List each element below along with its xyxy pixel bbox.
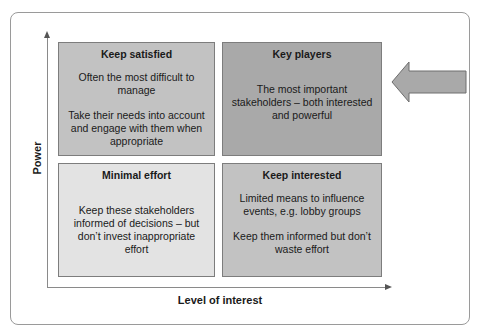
quadrant-title: Minimal effort bbox=[65, 169, 208, 182]
quadrant-text: The most important stakeholders – both i… bbox=[229, 83, 375, 122]
quadrant-text: Limited means to influence events, e.g. … bbox=[229, 192, 375, 218]
quadrant-text: Take their needs into account and engage… bbox=[65, 109, 208, 148]
y-axis-arrowhead-icon bbox=[44, 31, 50, 38]
quadrant-key-players: Key players The most important stakehold… bbox=[222, 42, 382, 156]
quadrant-keep-satisfied: Keep satisfied Often the most difficult … bbox=[58, 42, 215, 156]
x-axis-arrowhead-icon bbox=[385, 284, 392, 290]
quadrant-text: Keep these stakeholders informed of deci… bbox=[65, 204, 208, 256]
quadrant-text: Keep them informed but don’t waste effor… bbox=[229, 230, 375, 256]
x-axis-label: Level of interest bbox=[150, 294, 290, 306]
quadrant-title: Keep satisfied bbox=[65, 48, 208, 61]
left-arrow-icon bbox=[390, 60, 468, 104]
y-axis-label: Power bbox=[31, 133, 43, 183]
quadrant-keep-interested: Keep interested Limited means to influen… bbox=[222, 163, 382, 277]
y-axis-line bbox=[47, 38, 48, 288]
quadrant-title: Keep interested bbox=[229, 169, 375, 182]
quadrant-minimal-effort: Minimal effort Keep these stakeholders i… bbox=[58, 163, 215, 277]
x-axis-line bbox=[47, 287, 385, 288]
quadrant-title: Key players bbox=[229, 48, 375, 61]
quadrant-text: Often the most difficult to manage bbox=[65, 71, 208, 97]
